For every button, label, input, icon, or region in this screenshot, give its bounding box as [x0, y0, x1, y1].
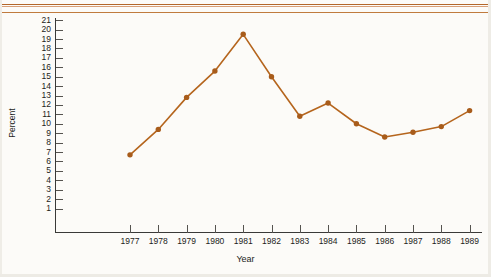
- line-chart: 212019181716151413121110987654321 197719…: [0, 0, 491, 277]
- series-line-percent: [130, 34, 470, 155]
- data-point: [184, 95, 189, 100]
- data-point: [382, 134, 387, 139]
- x-axis-label: Year: [0, 254, 491, 264]
- data-point: [241, 32, 246, 37]
- data-point: [467, 108, 472, 113]
- series-plot-area: [0, 0, 491, 277]
- data-point: [439, 124, 444, 129]
- data-point: [325, 100, 330, 105]
- page-background: 212019181716151413121110987654321 197719…: [0, 0, 491, 277]
- data-point: [156, 127, 161, 132]
- data-point: [212, 68, 217, 73]
- data-point: [269, 74, 274, 79]
- data-point: [127, 152, 132, 157]
- series-markers: [127, 32, 472, 158]
- data-point: [354, 121, 359, 126]
- data-point: [297, 114, 302, 119]
- data-point: [410, 130, 415, 135]
- y-axis-label: Percent: [7, 98, 17, 148]
